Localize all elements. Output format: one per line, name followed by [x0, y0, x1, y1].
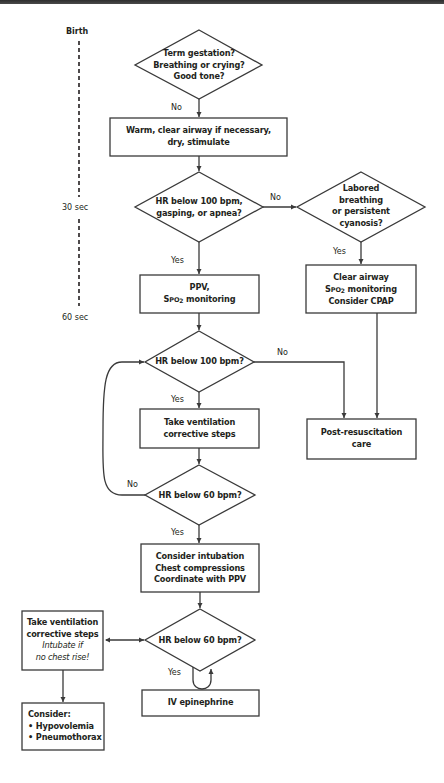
initial-assessment-text: Term gestation? Breathing or crying? Goo… [139, 48, 259, 83]
hr-below-60-b-text: HR below 60 bpm? [150, 635, 250, 647]
intubation-text: Consider intubation Chest compressions C… [141, 551, 259, 586]
hr-below-60-a-text: HR below 60 bpm? [150, 490, 250, 502]
initial-steps-text: Warm, clear airway if necessary, dry, st… [110, 125, 287, 148]
edge-label-hr60b-yes: Yes [168, 668, 181, 678]
edge-label-hr60a-yes: Yes [171, 528, 184, 538]
clear-airway-text: Clear airway SPO2 monitoring Consider CP… [306, 272, 416, 308]
labored-breathing-text: Labored breathing or persistent cyanosis… [311, 183, 411, 229]
flowchart-canvas [0, 0, 444, 783]
edge-label-hr-gasping-yes: Yes [171, 256, 184, 266]
timeline-60sec-label: 60 sec [62, 313, 88, 323]
edge-label-hr-gasping-no: No [270, 193, 281, 203]
edge-label-initial-no: No [171, 103, 182, 113]
ppv-text: PPV, SPO2 monitoring [140, 282, 259, 306]
timeline-30sec-label: 30 sec [62, 203, 88, 213]
edge-label-hr100-no: No [277, 348, 288, 358]
edge-label-labored-yes: Yes [333, 247, 346, 257]
edge-label-hr60a-no: No [127, 480, 138, 490]
consider-text: Consider: • Hypovolemia • Pneumothorax [28, 709, 104, 744]
post-resuscitation-text: Post-resuscitation care [307, 427, 416, 450]
hr-gasping-text: HR below 100 bpm, gasping, or apnea? [139, 196, 259, 219]
ventilation-corrective-text: Take ventilation corrective steps [140, 417, 259, 440]
hr-below-100-text: HR below 100 bpm? [149, 356, 250, 368]
timeline-birth-label: Birth [66, 27, 88, 37]
ventilation-intubate-text: Take ventilation corrective steps Intuba… [22, 617, 103, 663]
edge-label-hr100-yes: Yes [171, 395, 184, 405]
iv-epinephrine-text: IV epinephrine [142, 697, 259, 709]
